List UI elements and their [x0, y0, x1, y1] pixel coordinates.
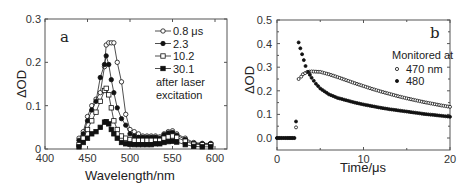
panel-a-data-point	[124, 112, 128, 116]
panel-b: 010200.00.10.20.30.40.5 b ΔOD Time/μs Mo…	[242, 14, 456, 175]
panel-b-data-point	[449, 105, 452, 108]
panel-a-legend-label: 0.8 μs	[173, 25, 204, 37]
panel-a-data-point	[158, 142, 162, 146]
panel-a-data-point	[132, 129, 136, 133]
panel-a-data-point	[115, 136, 119, 140]
panel-a-data-point	[192, 144, 196, 148]
panel-a-data-point	[166, 139, 170, 143]
panel-a-data-point	[119, 116, 123, 120]
panel-a-data-point	[124, 136, 128, 140]
panel-b-ytick-label: 0.2	[257, 85, 272, 97]
panel-a-data-point	[94, 129, 98, 133]
panel-a-data-point	[124, 123, 128, 127]
panel-b-legend-marker	[395, 79, 398, 82]
panel-b-data-point	[307, 70, 310, 73]
panel-a-data-point	[90, 108, 94, 112]
panel-a-data-point	[149, 138, 153, 142]
panel-b-data-point	[310, 76, 313, 79]
figure: 40045050055060000.10.20.3 a ΔOD Waveleng…	[0, 0, 466, 194]
panel-a-data-point	[119, 140, 123, 144]
panel-a-ytick-label: 0.3	[26, 13, 41, 25]
panel-a-data-point	[107, 122, 111, 126]
panel-a-data-point	[119, 134, 123, 138]
panel-a: 40045050055060000.10.20.3 a ΔOD Waveleng…	[14, 13, 227, 183]
panel-a-data-point	[98, 99, 102, 103]
panel-a-data-point	[112, 90, 116, 94]
panel-a-xtick-label: 450	[78, 152, 96, 164]
panel-b-letter: b	[430, 24, 440, 42]
panel-a-ytick-label: 0.1	[26, 100, 41, 112]
panel-a-series-3	[77, 120, 213, 150]
panel-a-legend-marker	[161, 66, 165, 70]
panel-a-data-point	[107, 93, 111, 97]
panel-a-data-point	[136, 138, 140, 142]
panel-b-data-point	[297, 41, 300, 44]
panel-a-data-point	[200, 145, 204, 149]
panel-b-ticks: 010200.00.10.20.30.40.5	[257, 14, 456, 165]
panel-b-data-point	[299, 47, 302, 50]
panel-b-legend-label: 470 nm	[406, 63, 443, 75]
panel-a-data-point	[81, 140, 85, 144]
panel-b-ytick-label: 0.0	[257, 132, 272, 144]
panel-b-ytick-label: 0.3	[257, 61, 272, 73]
panel-a-data-point	[145, 138, 149, 142]
panel-b-legend-label: 480	[406, 75, 424, 87]
panel-a-data-point	[115, 127, 119, 131]
panel-b-legend: Monitored at470 nm480	[392, 49, 453, 87]
panel-a-legend-marker	[161, 41, 165, 45]
panel-a-data-point	[81, 136, 85, 140]
panel-b-data-point	[302, 59, 305, 62]
panel-b-data-point	[293, 137, 296, 140]
panel-b-data-point	[297, 78, 300, 81]
panel-a-data-point	[77, 145, 81, 149]
panel-a-ytick-label: 0	[35, 143, 41, 155]
panel-b-ytick-label: 0.1	[257, 108, 272, 120]
panel-a-legend-label: 10.2	[173, 50, 194, 62]
panel-a-legend-note: after laser	[156, 76, 205, 88]
panel-a-legend-note: excitation	[156, 89, 202, 101]
panel-a-legend: 0.8 μs2.310.230.1after laserexcitation	[155, 25, 205, 101]
panel-a-data-point	[94, 110, 98, 114]
panel-a-data-point	[85, 127, 89, 131]
panel-b-legend-marker	[395, 67, 398, 70]
panel-a-ytick-label: 0.2	[26, 56, 41, 68]
panel-b-data-point	[295, 120, 298, 123]
panel-a-data-point	[124, 142, 128, 146]
panel-a-data-point	[104, 86, 108, 90]
panel-b-data-point	[449, 115, 452, 118]
panel-a-data-point	[109, 127, 113, 131]
panel-a-data-point	[128, 137, 132, 141]
panel-a-data-point	[209, 145, 213, 149]
panel-a-data-point	[98, 90, 102, 94]
panel-a-data-point	[98, 75, 102, 79]
panel-a-data-point	[141, 142, 145, 146]
panel-a-data-point	[162, 136, 166, 140]
panel-a-data-point	[162, 140, 166, 144]
panel-a-data-point	[112, 41, 116, 45]
panel-b-ytick-label: 0.5	[257, 14, 272, 26]
panel-a-xtick-label: 500	[121, 152, 139, 164]
panel-a-data-point	[102, 62, 106, 66]
panel-a-data-point	[175, 135, 179, 139]
panel-a-legend-label: 2.3	[173, 38, 188, 50]
panel-a-data-point	[175, 140, 179, 144]
panel-a-letter: a	[60, 28, 69, 46]
panel-a-data-point	[109, 77, 113, 81]
panel-a-data-point	[170, 139, 174, 143]
panel-a-xlabel: Wavelength/nm	[85, 168, 175, 183]
panel-a-legend-marker	[161, 54, 165, 58]
panel-a-legend-marker	[161, 29, 165, 33]
panel-b-xtick-label: 20	[444, 153, 456, 165]
panel-a-xtick-label: 550	[163, 152, 181, 164]
panel-b-legend-title: Monitored at	[392, 49, 453, 61]
panel-b-xtick-label: 0	[274, 153, 280, 165]
panel-a-data-point	[153, 142, 157, 146]
panel-a-data-point	[90, 132, 94, 136]
panel-a-data-point	[119, 80, 123, 84]
panel-a-data-point	[128, 142, 132, 146]
panel-a-data-point	[115, 60, 119, 64]
panel-a-data-point	[136, 142, 140, 146]
panel-a-data-point	[132, 134, 136, 138]
panel-a-data-point	[128, 132, 132, 136]
panel-a-data-point	[115, 106, 119, 110]
